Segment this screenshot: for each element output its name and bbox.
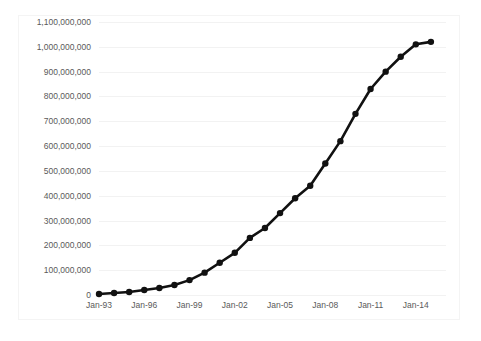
series-line [99,42,431,294]
data-point [352,111,358,117]
x-axis-tick-label: Jan-93 [86,300,112,311]
x-axis-tick-label: Jan-02 [222,300,248,311]
y-axis-tick-label: 300,000,000 [44,216,91,226]
x-axis-tick-label: Jan-99 [177,300,203,311]
data-point [141,287,147,293]
x-axis-tick-label: Jan-96 [131,300,157,311]
y-axis-tick-label: 1,100,000,000 [37,17,91,27]
x-axis-tick-label: Jan-08 [312,300,338,311]
y-axis-tick-label: 1,000,000,000 [37,42,91,52]
y-axis-tick-label: 200,000,000 [44,240,91,250]
data-point [201,269,207,275]
y-axis-tick-label: 400,000,000 [44,191,91,201]
data-point [171,282,177,288]
plot-area [99,22,446,295]
y-axis-tick-label: 700,000,000 [44,116,91,126]
y-axis-tick-label: 800,000,000 [44,91,91,101]
data-point [96,291,102,297]
data-point [367,86,373,92]
data-point [428,39,434,45]
y-axis-tick-label: 100,000,000 [44,265,91,275]
data-point [322,160,328,166]
x-axis-tick-label: Jan-05 [267,300,293,311]
x-axis-labels: Jan-93Jan-96Jan-99Jan-02Jan-05Jan-08Jan-… [99,300,446,316]
y-axis-tick-label: 600,000,000 [44,141,91,151]
chart-container: 1,100,000,0001,000,000,000900,000,000800… [0,0,481,341]
y-axis-tick-label: 0 [86,290,91,300]
data-point [398,54,404,60]
data-point [337,138,343,144]
data-point [156,285,162,291]
y-axis-tick-label: 500,000,000 [44,166,91,176]
series-markers [96,39,434,298]
y-axis-labels: 1,100,000,0001,000,000,000900,000,000800… [0,22,95,295]
gridline [99,295,446,296]
data-point [247,235,253,241]
data-point [307,183,313,189]
data-point [292,195,298,201]
data-point [186,277,192,283]
data-point [111,290,117,296]
data-point [262,225,268,231]
data-point [413,41,419,47]
data-series [99,22,446,295]
data-point [232,250,238,256]
data-point [277,210,283,216]
data-point [382,68,388,74]
x-axis-tick-label: Jan-11 [358,300,383,311]
data-point [126,289,132,295]
x-axis-tick-label: Jan-14 [403,300,429,311]
data-point [217,260,223,266]
y-axis-tick-label: 900,000,000 [44,67,91,77]
